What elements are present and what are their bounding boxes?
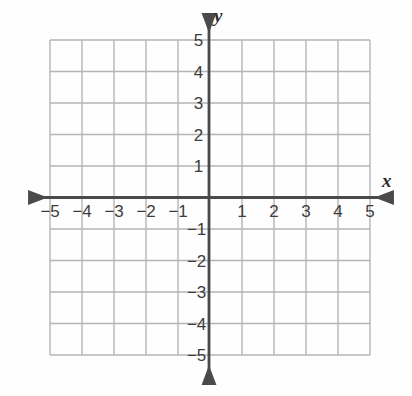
y-tick-label-neg2: −2 (187, 252, 206, 269)
x-tick-label-neg4: −4 (73, 203, 92, 220)
y-tick-label-neg1: −1 (187, 221, 206, 238)
x-tick-label-neg5: −5 (41, 203, 60, 220)
x-tick-label-3: 3 (301, 203, 310, 220)
y-tick-label-neg4: −4 (187, 315, 206, 332)
y-tick-label-3: 3 (194, 95, 203, 112)
coordinate-plane-figure: −5 −4 −3 −2 −1 1 2 3 4 5 5 4 3 2 1 −1 −2… (0, 0, 412, 396)
y-axis-label: y (214, 6, 222, 25)
x-tick-label-neg2: −2 (137, 203, 156, 220)
x-tick-label-2: 2 (269, 203, 278, 220)
x-axis-label: x (382, 171, 392, 190)
y-tick-label-1: 1 (194, 158, 203, 175)
x-tick-label-neg1: −1 (169, 203, 188, 220)
y-tick-label-neg3: −3 (187, 284, 206, 301)
x-tick-label-4: 4 (333, 203, 342, 220)
y-tick-label-4: 4 (194, 63, 203, 80)
x-tick-label-neg3: −3 (105, 203, 124, 220)
x-tick-label-1: 1 (237, 203, 246, 220)
x-tick-label-5: 5 (365, 203, 374, 220)
y-tick-label-5: 5 (194, 32, 203, 49)
y-tick-label-2: 2 (194, 126, 203, 143)
y-tick-label-neg5: −5 (187, 347, 206, 364)
coordinate-plane-canvas (0, 0, 412, 396)
